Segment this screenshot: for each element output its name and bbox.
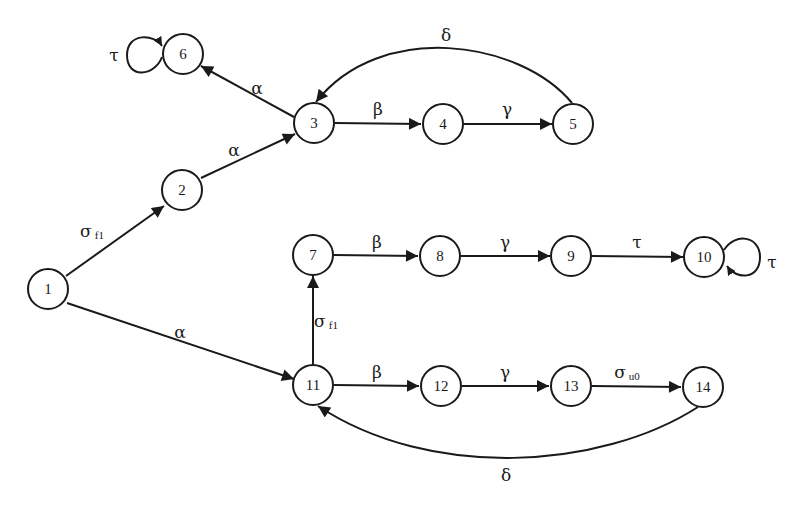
svg-text:4: 4 (439, 116, 447, 132)
edge-10-10 (724, 239, 760, 276)
svg-text:7: 7 (309, 247, 317, 263)
svg-text:13: 13 (564, 378, 579, 394)
node-12: 12 (421, 366, 461, 406)
edge-label-2-3: α (228, 140, 240, 160)
edge-label-11-12: β (372, 362, 382, 382)
state-diagram: σf1 α α α β γ δ τ σf1 β γ τ τ β γ σu0 δ … (0, 0, 802, 512)
svg-text:1: 1 (44, 281, 52, 297)
svg-text:3: 3 (310, 115, 318, 131)
svg-text:8: 8 (436, 248, 444, 264)
node-1: 1 (28, 269, 68, 309)
node-2: 2 (162, 170, 202, 210)
node-13: 13 (551, 366, 591, 406)
edge-3-4 (335, 123, 421, 124)
svg-text:9: 9 (567, 248, 575, 264)
edge-label-8-9: γ (500, 232, 510, 252)
node-14: 14 (683, 367, 723, 407)
node-8: 8 (420, 236, 460, 276)
edge-label-14-11: δ (501, 465, 511, 485)
edge-label-3-4: β (373, 99, 383, 119)
node-3: 3 (294, 103, 334, 143)
node-10: 10 (684, 237, 724, 277)
node-6: 6 (163, 34, 203, 74)
edge-label-1-11: α (174, 322, 186, 342)
edge-label-12-13: γ (500, 362, 510, 382)
edge-label-3-6: α (251, 78, 263, 98)
nodes: 1 2 3 4 5 6 7 8 9 10 11 12 13 14 (28, 34, 724, 407)
edge-label-1-2: σf1 (80, 221, 104, 241)
edge-7-8 (334, 255, 418, 256)
edge-label-6-6: τ (109, 45, 118, 65)
edge-6-6 (127, 37, 162, 72)
svg-text:12: 12 (434, 378, 449, 394)
svg-text:2: 2 (178, 182, 186, 198)
node-5: 5 (553, 104, 593, 144)
svg-text:11: 11 (306, 377, 320, 393)
node-7: 7 (293, 235, 333, 275)
edge-label-11-7: σf1 (314, 311, 338, 331)
svg-text:10: 10 (697, 249, 712, 265)
edge-3-6 (201, 66, 294, 117)
edge-label-5-3: δ (441, 25, 451, 45)
edge-label-4-5: γ (502, 99, 512, 119)
edge-label-13-14: σu0 (614, 362, 640, 382)
edge-2-3 (201, 134, 295, 178)
svg-text:14: 14 (696, 379, 712, 395)
edge-13-14 (592, 386, 681, 387)
edge-9-10 (592, 256, 683, 257)
edge-11-12 (334, 385, 419, 386)
edge-1-2 (66, 206, 164, 276)
edge-label-10-10: τ (767, 252, 776, 272)
edge-label-7-8: β (372, 232, 382, 252)
edge-label-9-10: τ (632, 232, 641, 252)
edge-5-3 (316, 48, 572, 103)
node-4: 4 (423, 104, 463, 144)
edges (66, 37, 760, 458)
svg-text:6: 6 (179, 46, 187, 62)
node-11: 11 (293, 365, 333, 405)
svg-text:5: 5 (569, 116, 577, 132)
node-9: 9 (551, 236, 591, 276)
edge-14-11 (318, 406, 698, 458)
